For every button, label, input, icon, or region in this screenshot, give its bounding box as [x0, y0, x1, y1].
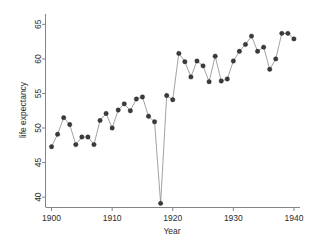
y-tick-label: 60 [33, 54, 43, 64]
data-point [201, 64, 205, 68]
data-point [261, 45, 265, 49]
data-point [219, 79, 223, 83]
data-point [195, 59, 199, 63]
data-point [164, 93, 168, 97]
data-point [74, 142, 78, 146]
data-point [177, 51, 181, 55]
data-point [140, 95, 144, 99]
data-point [55, 132, 59, 136]
data-point [104, 111, 108, 115]
data-point [152, 120, 156, 124]
x-tick-label: 1930 [224, 213, 243, 223]
data-point [231, 59, 235, 63]
y-tick-group: 404550556065 [33, 19, 46, 201]
data-point [183, 59, 187, 63]
y-tick-label: 45 [33, 158, 43, 168]
data-point [86, 135, 90, 139]
data-point [122, 102, 126, 106]
y-tick-label: 50 [33, 123, 43, 133]
data-point [98, 118, 102, 122]
data-point [255, 49, 259, 53]
data-point [110, 126, 114, 130]
x-axis-title: Year [163, 226, 180, 236]
data-point [274, 57, 278, 61]
life-expectancy-line-chart: 404550556065 19001910192019301940 life e… [0, 0, 313, 241]
data-point [158, 201, 162, 205]
data-point [128, 109, 132, 113]
data-point [92, 142, 96, 146]
x-tick-group: 19001910192019301940 [42, 208, 304, 223]
data-point [292, 37, 296, 41]
y-tick-label: 65 [33, 19, 43, 29]
x-tick-label: 1940 [284, 213, 303, 223]
data-point [49, 144, 53, 148]
x-tick-label: 1900 [42, 213, 61, 223]
x-tick-label: 1920 [163, 213, 182, 223]
data-point [237, 49, 241, 53]
chart-container: 404550556065 19001910192019301940 life e… [0, 0, 313, 241]
data-point [243, 42, 247, 46]
data-point [116, 108, 120, 112]
data-point [68, 122, 72, 126]
y-axis-title: life expectancy [18, 81, 28, 138]
data-point [213, 54, 217, 58]
data-point [280, 31, 284, 35]
data-point [134, 97, 138, 101]
data-point [80, 135, 84, 139]
data-point [286, 31, 290, 35]
data-point [268, 67, 272, 71]
data-point [146, 114, 150, 118]
data-point [225, 77, 229, 81]
series-marker-group [49, 31, 296, 205]
data-point [189, 75, 193, 79]
data-point [61, 115, 65, 119]
y-tick-label: 40 [33, 192, 43, 202]
x-tick-label: 1910 [103, 213, 122, 223]
data-point [207, 80, 211, 84]
series-line-life-expectancy [52, 33, 294, 203]
data-point [249, 34, 253, 38]
data-point [171, 97, 175, 101]
y-tick-label: 55 [33, 88, 43, 98]
